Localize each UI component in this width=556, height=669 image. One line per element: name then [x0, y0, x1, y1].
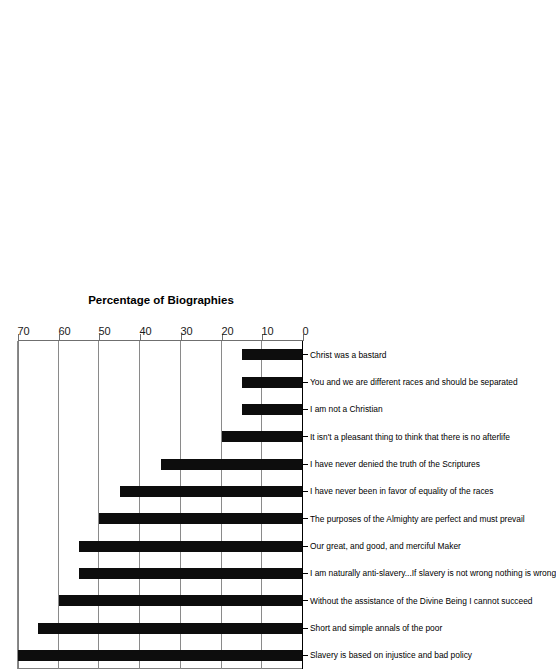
category-label: Our great, and good, and merciful Maker	[310, 542, 461, 551]
bar-slot	[18, 423, 303, 450]
category-label-slot: I have never denied the truth of the Scr…	[310, 450, 330, 477]
value-tick-label: 0	[303, 326, 309, 337]
bar-slot	[18, 560, 303, 587]
category-label-slot: You and we are different races and shoul…	[310, 368, 330, 395]
bar-slot	[18, 396, 303, 423]
bar-slot	[18, 368, 303, 395]
category-tick	[303, 436, 308, 437]
category-label-slot: I am naturally anti-slavery...If slavery…	[310, 560, 330, 587]
category-label: I have never been in favor of equality o…	[310, 487, 493, 496]
category-tick	[303, 573, 308, 574]
category-label: Christ was a bastard	[310, 351, 386, 360]
bar-slot	[18, 614, 303, 641]
bar	[99, 513, 303, 524]
plot-area	[18, 341, 303, 669]
tick-slot	[303, 560, 308, 587]
value-axis-title-text: Percentage of Biographies	[88, 294, 234, 306]
bar-slot	[18, 642, 303, 669]
category-label: You and we are different races and shoul…	[310, 378, 518, 387]
category-label-slot: Slavery is based on injustice and bad po…	[310, 642, 330, 669]
value-tick-label: 60	[58, 326, 70, 337]
bar	[38, 623, 303, 634]
bar	[18, 650, 303, 661]
category-label-slot: Without the assistance of the Divine Bei…	[310, 587, 330, 614]
category-labels: Slavery is based on injustice and bad po…	[310, 341, 330, 669]
category-label: I have never denied the truth of the Scr…	[310, 460, 480, 469]
category-label-slot: I have never been in favor of equality o…	[310, 478, 330, 505]
bar-slot	[18, 341, 303, 368]
category-label-slot: Christ was a bastard	[310, 341, 330, 368]
tick-slot	[303, 614, 308, 641]
tick-slot	[303, 396, 308, 423]
value-axis-line	[18, 340, 303, 341]
tick-slot	[303, 450, 308, 477]
category-tick	[303, 354, 308, 355]
tick-slot	[303, 478, 308, 505]
value-tick-label: 20	[221, 326, 233, 337]
tick-slot	[303, 423, 308, 450]
category-tick-marks	[303, 341, 308, 669]
category-tick	[303, 518, 308, 519]
category-label: It isn't a pleasant thing to think that …	[310, 433, 510, 442]
category-tick	[303, 491, 308, 492]
bar	[242, 377, 303, 388]
value-axis-title: Percentage of Biographies	[18, 291, 303, 309]
category-tick	[303, 546, 308, 547]
tick-slot	[303, 587, 308, 614]
bar	[120, 486, 303, 497]
tick-slot	[303, 505, 308, 532]
category-tick	[303, 655, 308, 656]
bar	[222, 431, 303, 442]
category-label-slot: Our great, and good, and merciful Maker	[310, 532, 330, 559]
bar-slot	[18, 478, 303, 505]
tick-slot	[303, 341, 308, 368]
category-tick	[303, 464, 308, 465]
bar-series	[18, 341, 303, 669]
tick-slot	[303, 368, 308, 395]
bar	[79, 568, 303, 579]
value-tick-label: 30	[180, 326, 192, 337]
value-tick-label: 10	[262, 326, 274, 337]
bar	[161, 459, 304, 470]
category-label-slot: The purposes of the Almighty are perfect…	[310, 505, 330, 532]
category-tick	[303, 628, 308, 629]
value-tick-label: 70	[18, 326, 30, 337]
category-label: I am not a Christian	[310, 405, 383, 414]
category-label-slot: I am not a Christian	[310, 396, 330, 423]
bar-slot	[18, 505, 303, 532]
bar	[59, 595, 303, 606]
value-tick-label: 50	[99, 326, 111, 337]
bar-slot	[18, 532, 303, 559]
bar	[242, 349, 303, 360]
category-tick	[303, 382, 308, 383]
bar-slot	[18, 587, 303, 614]
category-tick	[303, 600, 308, 601]
category-label-slot: It isn't a pleasant thing to think that …	[310, 423, 330, 450]
category-label: Slavery is based on injustice and bad po…	[310, 651, 472, 660]
category-label: Without the assistance of the Divine Bei…	[310, 597, 533, 606]
value-tick-label: 40	[140, 326, 152, 337]
category-label: The purposes of the Almighty are perfect…	[310, 515, 525, 524]
bar	[242, 404, 303, 415]
bar	[79, 541, 303, 552]
category-label: I am naturally anti-slavery...If slavery…	[310, 569, 556, 578]
tick-slot	[303, 532, 308, 559]
category-label-slot: Short and simple annals of the poor	[310, 614, 330, 641]
category-label: Short and simple annals of the poor	[310, 624, 442, 633]
category-tick	[303, 409, 308, 410]
bar-slot	[18, 450, 303, 477]
tick-slot	[303, 642, 308, 669]
